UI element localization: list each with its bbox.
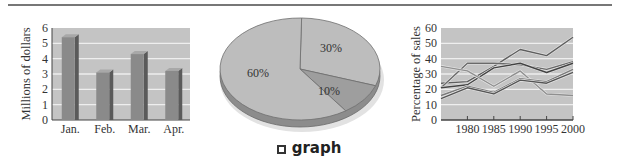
figure-caption: graph [0, 139, 618, 157]
y-tick-label: 3 [42, 67, 48, 81]
x-tick-label: 1985 [482, 122, 506, 136]
y-tick-label: 0 [431, 113, 437, 127]
pie-label: 60% [247, 66, 269, 80]
y-tick-label: 1 [42, 98, 48, 112]
bar-side [109, 69, 113, 120]
charts-canvas: 0123456Millions of dollarsJan.Feb.Mar.Ap… [0, 0, 618, 158]
pie-chart: 60%30%10% [220, 18, 384, 132]
y-tick-label: 6 [42, 21, 48, 35]
x-tick-label: 2000 [561, 122, 585, 136]
y-axis-label: Percentage of sales [409, 26, 423, 122]
x-tick-label: Jan. [61, 122, 80, 136]
hollow-square-icon [277, 145, 286, 154]
y-tick-label: 2 [42, 82, 48, 96]
y-tick-label: 40 [425, 52, 437, 66]
x-tick-label: 1995 [535, 122, 559, 136]
y-tick-label: 10 [425, 98, 437, 112]
bar-side [75, 34, 79, 120]
x-tick-label: 1980 [455, 122, 479, 136]
y-tick-label: 4 [42, 52, 48, 66]
bar-side [178, 68, 182, 120]
caption-label: graph [292, 139, 342, 157]
line-chart: 010203040506019801985199019952000Percent… [409, 21, 585, 136]
bar-chart: 0123456Millions of dollarsJan.Feb.Mar.Ap… [19, 21, 190, 136]
y-tick-label: 20 [425, 82, 437, 96]
y-tick-label: 50 [425, 36, 437, 50]
x-tick-label: 1990 [508, 122, 532, 136]
y-tick-label: 30 [425, 67, 437, 81]
y-tick-label: 0 [42, 113, 48, 127]
y-tick-label: 5 [42, 36, 48, 50]
bar-jan [62, 37, 75, 120]
bar-side [144, 51, 148, 120]
pie-label: 10% [318, 84, 340, 98]
y-tick-label: 60 [425, 21, 437, 35]
x-tick-label: Feb. [94, 122, 115, 136]
x-tick-label: Mar. [128, 122, 150, 136]
pie-label: 30% [320, 41, 342, 55]
y-axis-label: Millions of dollars [19, 27, 33, 120]
bar-apr [165, 71, 178, 120]
x-tick-label: Apr. [163, 122, 184, 136]
bar-mar [131, 54, 144, 120]
bar-feb [96, 72, 109, 120]
